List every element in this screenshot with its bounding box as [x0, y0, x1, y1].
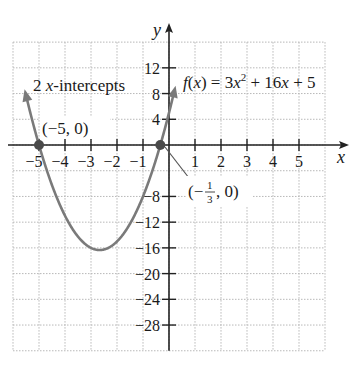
svg-text:, 0): , 0)	[216, 182, 239, 201]
intercepts-annotation: 2 x-intercepts	[33, 76, 125, 95]
svg-text:(−: (−	[188, 182, 203, 201]
function-label: f(x) = 3x2 + 16x + 5	[183, 71, 315, 92]
x-intercept-point	[34, 140, 44, 150]
curve-left-arrow-icon	[23, 89, 33, 102]
y-tick-label: −28	[135, 317, 160, 334]
x-tick-label: −2	[103, 153, 120, 170]
x-tick-label: −4	[51, 153, 68, 170]
x-tick-label: −1	[129, 153, 146, 170]
x-tick-label: −3	[77, 153, 94, 170]
x-intercept-point	[155, 140, 165, 150]
quadratic-graph: −5−4−3−2−1123451284−8−12−16−20−24−28 y x…	[0, 0, 361, 372]
x-tick-label: 4	[269, 153, 277, 170]
point1-label: (−5, 0)	[42, 119, 88, 138]
y-tick-label: −24	[135, 291, 160, 308]
x-tick-label: 1	[191, 153, 199, 170]
x-tick-label: 3	[243, 153, 251, 170]
x-axis-label: x	[336, 147, 345, 167]
y-tick-label: 8	[152, 86, 160, 103]
svg-text:1: 1	[207, 179, 213, 191]
x-tick-label: −5	[25, 153, 42, 170]
svg-text:3: 3	[207, 193, 213, 205]
y-tick-label: −12	[135, 214, 160, 231]
x-tick-label: 5	[295, 153, 303, 170]
y-tick-label: 12	[144, 60, 160, 77]
y-tick-label: −20	[135, 266, 160, 283]
x-tick-label: 2	[217, 153, 225, 170]
y-axis-label: y	[151, 20, 161, 40]
y-tick-label: −16	[135, 240, 160, 257]
y-tick-label: 4	[152, 111, 160, 128]
